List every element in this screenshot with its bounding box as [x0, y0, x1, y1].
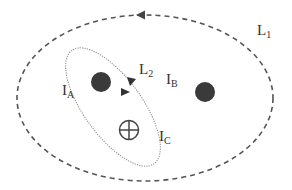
loop-l1: [17, 15, 273, 181]
loop-l1-arrow-icon: [136, 11, 145, 20]
current-a-dot: [91, 72, 111, 92]
current-c-into-page-icon: [120, 121, 139, 140]
label-l1: L1: [257, 22, 271, 40]
loop-l2-arrow-icon: [127, 77, 136, 86]
loop-l2: [48, 33, 177, 180]
ampere-loop-diagram: L1 L2 IA IB IC: [0, 0, 292, 190]
current-a-direction-arrow-icon: [121, 88, 130, 96]
current-b-dot: [195, 82, 215, 102]
label-ib: IB: [166, 71, 178, 89]
label-l2: L2: [139, 61, 153, 79]
label-ic: IC: [159, 128, 171, 146]
